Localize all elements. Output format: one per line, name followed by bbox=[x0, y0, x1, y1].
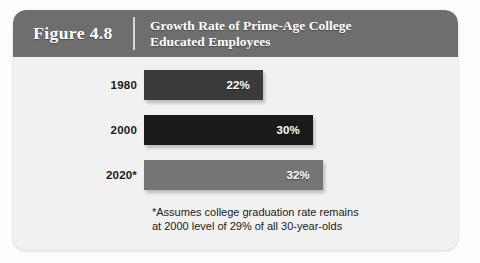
footnote-line-2: at 2000 level of 29% of all 30-year-olds bbox=[152, 219, 442, 233]
bar-2020: 32% bbox=[144, 160, 323, 190]
figure-header: Figure 4.8 Growth Rate of Prime-Age Coll… bbox=[13, 10, 458, 57]
figure-number-label: Figure 4.8 bbox=[13, 10, 133, 57]
bar-1980: 22% bbox=[144, 70, 263, 100]
footnote-line-1: *Assumes college graduation rate remains bbox=[152, 205, 442, 219]
bar-track: 30% bbox=[144, 115, 313, 145]
figure-title: Growth Rate of Prime-Age College Educate… bbox=[150, 10, 450, 57]
bar-2000: 30% bbox=[144, 115, 313, 145]
header-divider bbox=[133, 17, 135, 50]
bar-category-label: 1980 bbox=[53, 70, 137, 100]
figure-footnote: *Assumes college graduation rate remains… bbox=[152, 205, 442, 233]
bar-row: 1980 22% bbox=[13, 70, 458, 100]
bar-track: 32% bbox=[144, 160, 323, 190]
bar-row: 2000 30% bbox=[13, 115, 458, 145]
bar-value-label: 32% bbox=[286, 169, 323, 181]
figure-title-line-2: Educated Employees bbox=[150, 34, 450, 50]
figure-title-line-1: Growth Rate of Prime-Age College bbox=[150, 18, 450, 34]
figure-card: Figure 4.8 Growth Rate of Prime-Age Coll… bbox=[13, 10, 458, 250]
bar-category-label: 2020* bbox=[53, 160, 137, 190]
bar-track: 22% bbox=[144, 70, 263, 100]
bar-chart-plot-area: 1980 22% 2000 30% 2020* 32% bbox=[13, 57, 458, 250]
bar-row: 2020* 32% bbox=[13, 160, 458, 190]
bar-value-label: 22% bbox=[226, 79, 263, 91]
bar-value-label: 30% bbox=[276, 124, 313, 136]
bar-category-label: 2000 bbox=[53, 115, 137, 145]
